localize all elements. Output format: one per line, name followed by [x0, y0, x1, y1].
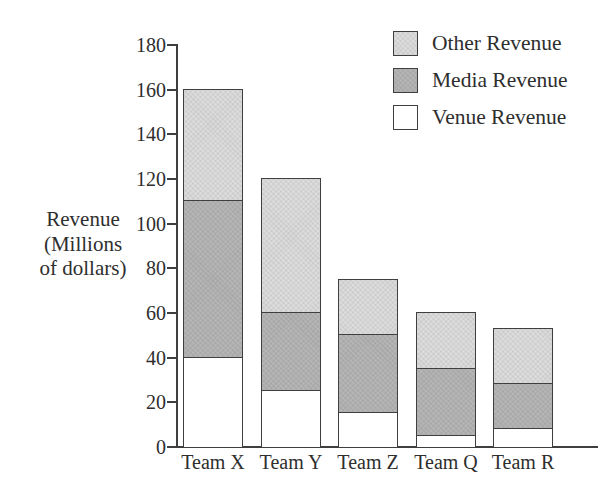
- y-tick: [167, 133, 176, 135]
- y-tick-label: 60: [100, 303, 166, 323]
- legend-item-media-revenue: Media Revenue: [393, 68, 568, 93]
- y-tick: [167, 178, 176, 180]
- y-tick-label: 160: [100, 80, 166, 100]
- bar-segment-media-revenue-team-y: [262, 313, 320, 391]
- legend-item-other-revenue: Other Revenue: [393, 31, 568, 56]
- bar-segment-other-revenue-team-x: [184, 90, 242, 202]
- y-tick-label: 80: [100, 258, 166, 278]
- bar-segment-media-revenue-team-r: [494, 384, 552, 429]
- legend-label-venue-revenue: Venue Revenue: [432, 107, 566, 129]
- y-tick: [167, 401, 176, 403]
- bar-team-z: [338, 279, 398, 449]
- legend-swatch-venue-revenue: [393, 105, 418, 130]
- x-axis-label-team-r: Team R: [473, 452, 573, 472]
- legend-label-other-revenue: Other Revenue: [432, 33, 562, 55]
- stacked-bar-chart: Revenue (Millions of dollars) 0204060801…: [0, 0, 601, 493]
- legend: Other Revenue Media Revenue Venue Revenu…: [393, 31, 568, 142]
- y-tick-label: 100: [100, 214, 166, 234]
- y-axis-line: [176, 44, 178, 448]
- y-tick-label: 20: [100, 392, 166, 412]
- y-tick: [167, 44, 176, 46]
- y-tick-label: 0: [100, 437, 166, 457]
- bar-segment-venue-revenue-team-x: [184, 358, 242, 447]
- y-tick-label: 140: [100, 124, 166, 144]
- bar-team-y: [261, 178, 321, 448]
- y-tick: [167, 446, 176, 448]
- y-tick-label: 120: [100, 169, 166, 189]
- y-tick: [167, 312, 176, 314]
- y-tick: [167, 223, 176, 225]
- bar-segment-media-revenue-team-z: [339, 335, 397, 413]
- legend-swatch-other-revenue: [393, 31, 418, 56]
- bar-team-x: [183, 89, 243, 448]
- bar-segment-other-revenue-team-z: [339, 280, 397, 336]
- bar-segment-media-revenue-team-x: [184, 201, 242, 357]
- bar-segment-other-revenue-team-r: [494, 329, 552, 385]
- bar-segment-venue-revenue-team-r: [494, 429, 552, 447]
- bar-team-r: [493, 328, 553, 448]
- legend-swatch-media-revenue: [393, 68, 418, 93]
- legend-label-media-revenue: Media Revenue: [432, 70, 568, 92]
- legend-item-venue-revenue: Venue Revenue: [393, 105, 568, 130]
- y-tick-label: 40: [100, 348, 166, 368]
- bar-segment-venue-revenue-team-y: [262, 391, 320, 447]
- bar-segment-venue-revenue-team-z: [339, 413, 397, 447]
- y-tick: [167, 357, 176, 359]
- y-axis-title-line2: (Millions: [28, 232, 138, 257]
- bar-segment-media-revenue-team-q: [417, 369, 475, 436]
- y-tick: [167, 89, 176, 91]
- bar-segment-other-revenue-team-q: [417, 313, 475, 369]
- bar-segment-venue-revenue-team-q: [417, 436, 475, 447]
- y-tick: [167, 267, 176, 269]
- bar-team-q: [416, 312, 476, 448]
- y-tick-label: 180: [100, 35, 166, 55]
- bar-segment-other-revenue-team-y: [262, 179, 320, 313]
